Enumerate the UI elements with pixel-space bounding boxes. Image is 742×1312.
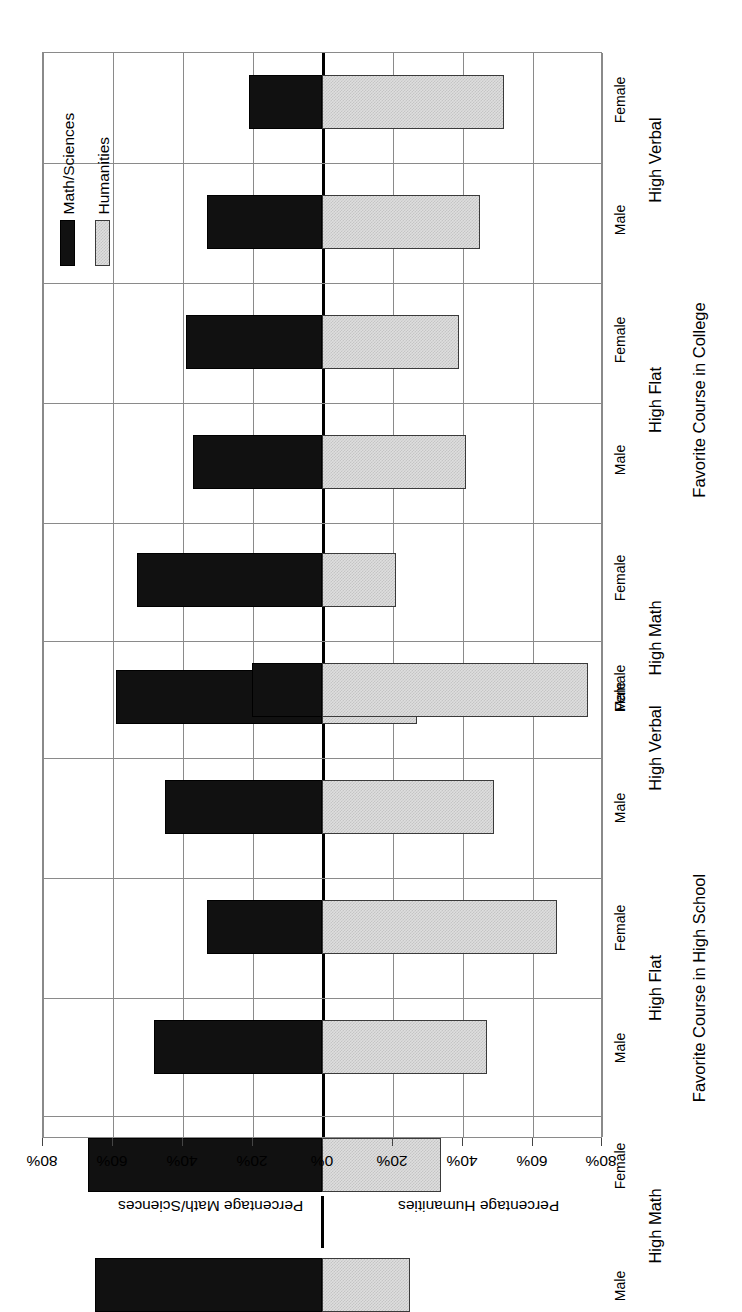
category-label-college-verbal-female: Female bbox=[612, 77, 628, 124]
bar-math-sciences bbox=[207, 195, 323, 249]
bar-humanities bbox=[322, 780, 494, 834]
bar-humanities bbox=[322, 315, 459, 369]
group-label-college-flat: High Flat bbox=[646, 367, 665, 433]
bar-math-sciences bbox=[207, 900, 323, 954]
legend-swatch-humanities bbox=[95, 220, 110, 266]
axis-tick-label: 60% bbox=[509, 1152, 555, 1170]
panel-label-college: Favorite Course in College bbox=[690, 302, 709, 497]
bar-math-sciences bbox=[95, 1258, 323, 1312]
category-label-college-math-female: Female bbox=[612, 555, 628, 602]
axis-tick bbox=[252, 1138, 253, 1146]
group-label-college-verbal: High Verbal bbox=[646, 117, 665, 202]
axis-title-humanities: Percentage Humanities bbox=[398, 1197, 559, 1215]
bar-row bbox=[43, 1020, 601, 1074]
bar-humanities bbox=[322, 435, 466, 489]
gridline-plus80 bbox=[602, 53, 603, 1137]
bar-row bbox=[43, 553, 601, 607]
category-label-hs-flat-female: Female bbox=[612, 905, 628, 952]
category-label-college-flat-male: Male bbox=[612, 445, 628, 475]
bar-row bbox=[43, 435, 601, 489]
legend-swatch-math-sciences bbox=[60, 220, 75, 266]
axis-tick bbox=[601, 1138, 602, 1146]
zero-axis-stub bbox=[321, 1196, 324, 1248]
bar-row bbox=[43, 780, 601, 834]
group-separator bbox=[43, 758, 601, 759]
bar-math-sciences bbox=[137, 553, 323, 607]
group-label-hs-verbal: High Verbal bbox=[646, 705, 665, 790]
bar-math-sciences bbox=[154, 1020, 322, 1074]
bar-humanities bbox=[322, 663, 588, 717]
category-label-college-flat-female: Female bbox=[612, 317, 628, 364]
bar-row bbox=[43, 1258, 601, 1312]
group-separator bbox=[43, 1116, 601, 1117]
axis-tick-label: 80% bbox=[19, 1152, 65, 1170]
category-label-hs-math-female: Female bbox=[612, 1143, 628, 1190]
group-label-hs-flat: High Flat bbox=[646, 955, 665, 1021]
axis-tick bbox=[42, 1138, 43, 1146]
group-label-college-math: High Math bbox=[646, 600, 665, 675]
axis-tick-label: 40% bbox=[159, 1152, 205, 1170]
panel-label-hs: Favorite Course in High School bbox=[690, 874, 709, 1102]
category-label-hs-math-male: Male bbox=[612, 1271, 628, 1301]
category-label-hs-verbal-male: Male bbox=[612, 793, 628, 823]
axis-tick bbox=[112, 1138, 113, 1146]
axis-tick bbox=[462, 1138, 463, 1146]
bar-row bbox=[43, 900, 601, 954]
bar-humanities bbox=[322, 195, 480, 249]
category-label-college-verbal-male: Male bbox=[612, 205, 628, 235]
bar-humanities bbox=[322, 75, 504, 129]
group-separator bbox=[43, 878, 601, 879]
axis-tick-label: 20% bbox=[369, 1152, 415, 1170]
group-separator bbox=[43, 403, 601, 404]
axis-tick bbox=[532, 1138, 533, 1146]
bar-humanities bbox=[322, 553, 396, 607]
panel-separator bbox=[43, 641, 601, 642]
group-label-hs-math: High Math bbox=[646, 1188, 665, 1263]
bar-math-sciences bbox=[252, 663, 322, 717]
bar-humanities bbox=[322, 1258, 410, 1312]
axis-tick bbox=[182, 1138, 183, 1146]
legend-label-math-sciences: Math/Sciences bbox=[61, 112, 77, 214]
bar-math-sciences bbox=[193, 435, 323, 489]
axis-tick-label: 20% bbox=[229, 1152, 275, 1170]
axis-tick bbox=[322, 1138, 323, 1146]
bar-row bbox=[43, 663, 601, 717]
chart-legend: Math/Sciences Humanities bbox=[46, 56, 198, 266]
bar-row bbox=[43, 315, 601, 369]
bar-math-sciences bbox=[249, 75, 323, 129]
axis-tick-label: 40% bbox=[439, 1152, 485, 1170]
axis-tick-label: 60% bbox=[89, 1152, 135, 1170]
bar-math-sciences bbox=[165, 780, 323, 834]
category-label-hs-verbal-female: Female bbox=[612, 665, 628, 712]
legend-label-humanities: Humanities bbox=[96, 136, 112, 214]
axis-tick bbox=[392, 1138, 393, 1146]
group-separator bbox=[43, 998, 601, 999]
group-separator bbox=[43, 283, 601, 284]
bar-humanities bbox=[322, 900, 557, 954]
group-separator bbox=[43, 523, 601, 524]
axis-tick-label: 0% bbox=[299, 1152, 345, 1170]
bar-humanities bbox=[322, 1020, 487, 1074]
category-label-hs-flat-male: Male bbox=[612, 1033, 628, 1063]
bar-math-sciences bbox=[186, 315, 323, 369]
axis-title-math-sciences: Percentage Math/Sciences bbox=[118, 1197, 303, 1215]
